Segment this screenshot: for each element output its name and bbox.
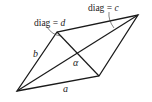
side-b-label: b — [33, 48, 38, 59]
angle-alpha-label: α — [73, 57, 79, 68]
diagonal-d — [57, 32, 99, 76]
diag-c-label: diag = c — [88, 3, 119, 13]
diag-d-label: diag = d — [34, 18, 65, 28]
side-a-label: a — [63, 83, 68, 94]
parallelogram-diagram: diag = d diag = c b a α — [0, 0, 152, 102]
